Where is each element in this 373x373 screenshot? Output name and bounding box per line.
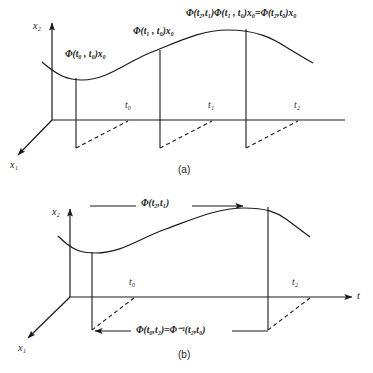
panel-a-annotation-t0: Φ(t₀ , t₀)x₀ xyxy=(65,50,106,60)
panel-a-projection-dash-t2 xyxy=(246,121,298,148)
panel-a-tick-label-t0: t₀ xyxy=(125,101,131,111)
panel-b-x2-axis-label: x₂ xyxy=(52,207,60,217)
panel-a-x2-axis-label: x₂ xyxy=(33,21,41,31)
panel-a-projection-dash-t0 xyxy=(76,121,128,148)
panel-a-x1-axis xyxy=(18,120,52,155)
panel-a-tick-label-t2: t₂ xyxy=(294,101,300,111)
panel-b-projection-dash-t0 xyxy=(92,298,134,330)
panel-a-projection-dash-t1 xyxy=(160,121,212,148)
panel-a-tick-label-t1: t₁ xyxy=(208,101,214,111)
panel-b-graphics xyxy=(28,206,352,338)
panel-b-x1-axis xyxy=(28,297,70,338)
panel-a-annotation-t2: Φ(t₂,t₁)Φ(t₁ , t₀)x₀=Φ(t₂,t₀)x₀ xyxy=(186,9,297,19)
panel-b-backward-operator-label: Φ(t₀,t₂)=Φ⁻¹(t₂,t₀) xyxy=(136,326,205,336)
panel-a-x1-axis-label: x₁ xyxy=(10,160,18,170)
panel-b-t-axis-label: t xyxy=(357,291,360,301)
panel-a-caption: (a) xyxy=(178,165,190,175)
panel-a-annotation-t1: Φ(t₁ , t₀)x₀ xyxy=(133,27,174,37)
panel-b-tick-label-t0: t₀ xyxy=(129,278,135,288)
state-transition-diagram-figure: x₂ x₁ Φ(t₀ , t₀)x₀ Φ(t₁ , t₀)x₀ Φ(t₂,t₁)… xyxy=(0,0,373,373)
panel-b-tick-label-t2: t₂ xyxy=(292,278,298,288)
panel-b-trajectory-curve xyxy=(58,208,310,253)
panel-b-forward-operator-label: Φ(t₂,t₁) xyxy=(141,199,169,209)
panel-b-caption: (b) xyxy=(178,350,190,360)
diagram-canvas xyxy=(0,0,373,373)
panel-a-graphics xyxy=(18,23,345,155)
panel-b-x1-axis-label: x₁ xyxy=(18,343,26,353)
panel-b-projection-dash-t2 xyxy=(268,298,310,330)
